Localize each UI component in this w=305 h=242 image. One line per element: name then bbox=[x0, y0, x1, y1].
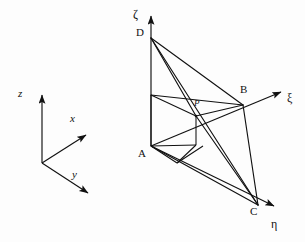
edge-A-C bbox=[151, 146, 258, 205]
vertex-label-P: P bbox=[194, 99, 200, 108]
box-edge-base-back bbox=[151, 145, 196, 146]
vertex-markers bbox=[195, 115, 198, 118]
tetrahedron-edges bbox=[151, 38, 258, 205]
axis-label-eta: η bbox=[271, 218, 277, 230]
vertex-label-A: A bbox=[138, 148, 146, 159]
vertex-label-B: B bbox=[240, 84, 247, 95]
box-edge-base-front-left bbox=[151, 146, 177, 163]
vertex-label-C: C bbox=[250, 206, 257, 217]
local-axis-eta bbox=[151, 146, 274, 206]
global-axis-y bbox=[42, 163, 88, 193]
edge-D-B bbox=[151, 38, 243, 105]
vertex-label-D: D bbox=[136, 27, 144, 38]
edge-B-C bbox=[243, 105, 258, 205]
axis-label-x: x bbox=[70, 113, 75, 124]
edge-D-C bbox=[151, 38, 258, 205]
local-axis-xi bbox=[151, 92, 281, 146]
vertex-point-P bbox=[195, 115, 198, 118]
global-axis-x bbox=[42, 135, 86, 163]
axis-label-y: y bbox=[72, 169, 77, 180]
axis-label-xi: ξ bbox=[287, 92, 292, 104]
geometry-figure: z x y ζ ξ η A B C D P bbox=[0, 0, 305, 242]
box-edge-base-diagonal bbox=[177, 146, 203, 163]
figure-canvas bbox=[0, 0, 305, 242]
edge-D-P bbox=[151, 38, 196, 116]
edge-P-C bbox=[196, 116, 258, 205]
box-edge-base-front-right bbox=[177, 145, 196, 163]
axis-label-z: z bbox=[18, 88, 22, 99]
global-cartesian-axes bbox=[42, 95, 88, 193]
axis-label-zeta: ζ bbox=[133, 8, 138, 20]
